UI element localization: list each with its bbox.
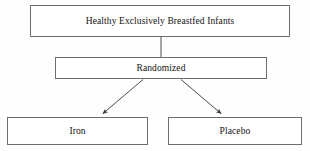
node-randomized: Randomized xyxy=(55,57,267,79)
node-label: Placebo xyxy=(220,126,251,136)
node-healthy-exclusively-breastfed-infants: Healthy Exclusively Breastfed Infants xyxy=(30,5,290,37)
node-iron: Iron xyxy=(7,117,148,145)
edge-randomized-placebo xyxy=(181,80,221,114)
node-placebo: Placebo xyxy=(168,117,302,145)
node-label: Healthy Exclusively Breastfed Infants xyxy=(86,16,235,26)
node-label: Randomized xyxy=(136,63,185,73)
study-flow-diagram: Healthy Exclusively Breastfed Infants Ra… xyxy=(0,0,310,151)
edge-randomized-iron xyxy=(103,80,143,114)
node-label: Iron xyxy=(69,126,85,136)
